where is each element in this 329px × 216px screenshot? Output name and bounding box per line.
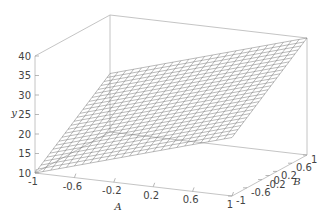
z-tick-label: 20: [18, 129, 31, 140]
surface-plot: 10152025303540-1-0.6-0.20.20.61-1-0.6-0.…: [0, 0, 329, 216]
box-edge: [110, 15, 307, 38]
box-edge: [35, 15, 110, 56]
b-axis-label: B: [292, 176, 300, 187]
a-tick-label: 0.2: [143, 190, 159, 201]
z-axis-label: y: [10, 107, 17, 118]
a-tick: [193, 187, 195, 191]
b-tick-label: -1: [236, 195, 246, 206]
z-tick-label: 30: [18, 90, 31, 101]
a-tick: [74, 174, 76, 178]
b-tick-label: 1: [311, 154, 317, 165]
z-tick-label: 25: [18, 109, 31, 120]
b-tick-label: 0.6: [296, 162, 312, 173]
a-tick-label: 1: [227, 199, 233, 210]
a-tick-label: -0.2: [102, 185, 122, 196]
a-axis-label: A: [113, 201, 121, 212]
a-tick-label: -0.6: [63, 181, 83, 192]
z-tick-label: 35: [18, 70, 31, 81]
b-tick-label: 0: [274, 175, 280, 186]
a-tick: [114, 178, 116, 182]
z-tick-label: 15: [18, 148, 31, 159]
z-tick-label: 40: [18, 51, 31, 62]
a-tick-label: -1: [28, 176, 38, 187]
a-tick: [153, 183, 155, 187]
a-tick-label: 0.6: [183, 194, 199, 205]
